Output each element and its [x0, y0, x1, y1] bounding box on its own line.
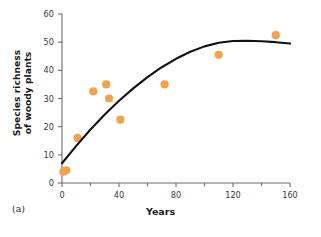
y-axis-tick-label: 20	[32, 122, 54, 132]
data-point	[89, 87, 97, 95]
data-point	[105, 94, 113, 102]
data-point	[102, 80, 110, 88]
y-axis-tick-label: 40	[32, 65, 54, 75]
data-point	[215, 51, 223, 59]
y-axis-tick-label: 30	[32, 94, 54, 104]
panel-label: (a)	[12, 203, 25, 214]
x-axis-tick-label: 0	[49, 190, 75, 200]
x-axis-title: Years	[0, 206, 321, 217]
x-axis-tick-label: 120	[220, 190, 246, 200]
data-point	[272, 31, 280, 39]
x-axis-tick-label: 80	[163, 190, 189, 200]
x-axis-tick-label: 160	[277, 190, 303, 200]
y-axis-tick-label: 0	[32, 178, 54, 188]
data-point	[161, 80, 169, 88]
y-axis-tick-label: 10	[32, 150, 54, 160]
y-axis-tick-label: 60	[32, 9, 54, 19]
data-point	[62, 166, 70, 174]
figure-panel-a: Species richness of woody plants Years (…	[0, 0, 321, 237]
data-point	[116, 116, 124, 124]
scatter-plot-canvas	[0, 0, 321, 237]
data-point-group	[59, 31, 280, 176]
x-axis-tick-label: 40	[106, 190, 132, 200]
fitted-curve	[62, 41, 290, 164]
y-axis-tick-label: 50	[32, 37, 54, 47]
y-axis-title-line1: Species richness	[11, 50, 22, 136]
